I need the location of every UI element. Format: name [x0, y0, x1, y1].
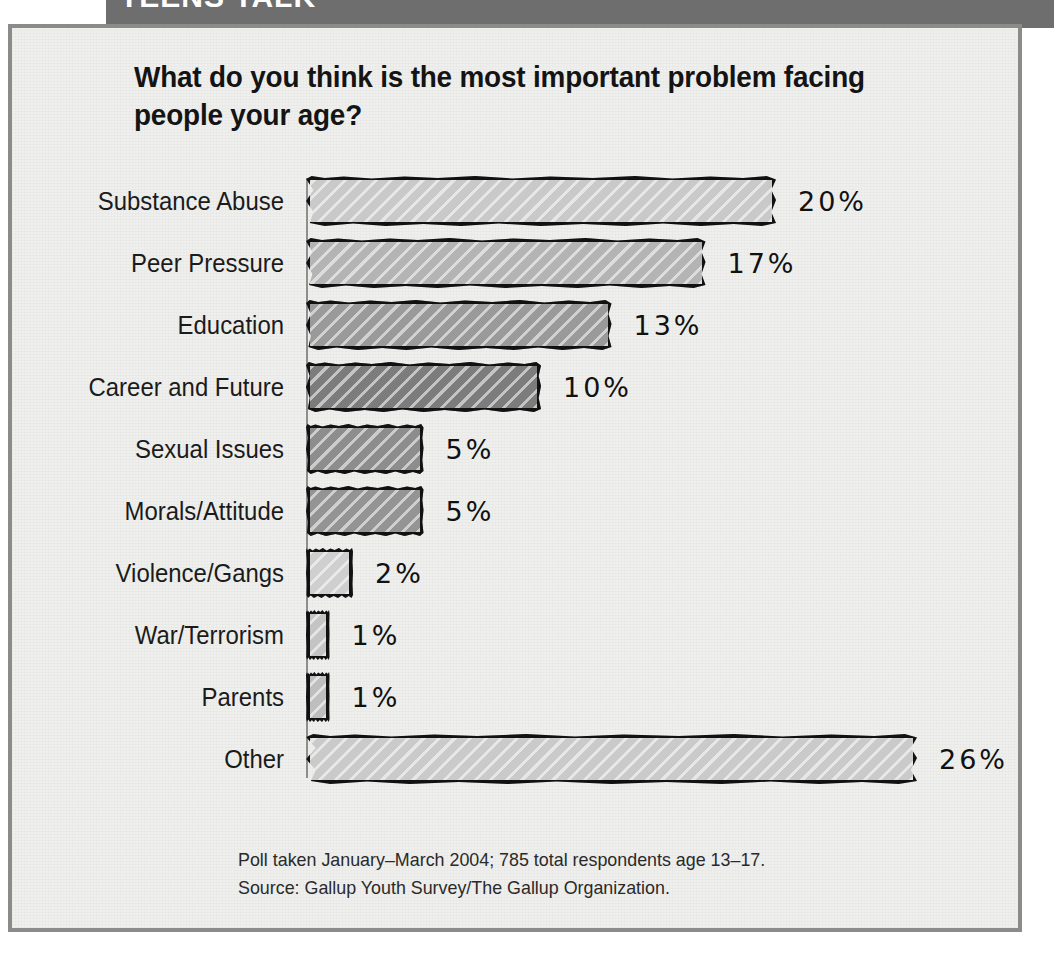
chart-row: War/Terrorism1%: [12, 604, 1018, 666]
chart-card: What do you think is the most important …: [8, 24, 1022, 932]
chart-row: Education13%: [12, 294, 1018, 356]
chart-row: Other26%: [12, 728, 1018, 790]
bar-value-label: 1%: [352, 604, 401, 666]
category-label: Peer Pressure: [34, 232, 284, 294]
bar-shape: [306, 548, 353, 598]
bar-shape: [306, 424, 424, 474]
bar-parents: [306, 672, 330, 722]
banner-title: TEENS TALK: [120, 0, 316, 14]
bar-substance-abuse: [306, 176, 776, 226]
bar-shape: [306, 300, 612, 350]
bar-value-label: 5%: [446, 418, 495, 480]
bar-violence-gangs: [306, 548, 353, 598]
category-label: Sexual Issues: [34, 418, 284, 480]
category-label: Parents: [34, 666, 284, 728]
bar-hatch-pattern: [310, 242, 702, 284]
bar-value-label: 5%: [446, 480, 495, 542]
bar-hatch-pattern: [310, 676, 326, 718]
bar-hatch-pattern: [310, 614, 326, 656]
category-label: War/Terrorism: [34, 604, 284, 666]
bar-value-label: 20%: [798, 170, 867, 232]
bar-hatch-pattern: [310, 738, 913, 780]
bar-chart: Substance Abuse20%Peer Pressure17%Educat…: [12, 156, 1018, 796]
category-label: Education: [34, 294, 284, 356]
bar-sexual-issues: [306, 424, 424, 474]
bar-hatch-pattern: [310, 552, 349, 594]
category-label: Other: [34, 728, 284, 790]
category-label: Career and Future: [34, 356, 284, 418]
bar-shape: [306, 486, 424, 536]
bar-value-label: 1%: [352, 666, 401, 728]
bar-shape: [306, 672, 330, 722]
footnote-line-2: Source: Gallup Youth Survey/The Gallup O…: [238, 874, 765, 902]
bar-hatch-pattern: [310, 428, 420, 470]
bar-hatch-pattern: [310, 490, 420, 532]
bar-shape: [306, 734, 917, 784]
chart-row: Morals/Attitude5%: [12, 480, 1018, 542]
chart-row: Violence/Gangs2%: [12, 542, 1018, 604]
bar-shape: [306, 176, 776, 226]
chart-row: Substance Abuse20%: [12, 170, 1018, 232]
chart-row: Peer Pressure17%: [12, 232, 1018, 294]
page-title: What do you think is the most important …: [134, 58, 869, 135]
bar-shape: [306, 610, 330, 660]
category-label: Substance Abuse: [34, 170, 284, 232]
category-label: Violence/Gangs: [34, 542, 284, 604]
chart-row: Career and Future10%: [12, 356, 1018, 418]
category-label: Morals/Attitude: [34, 480, 284, 542]
chart-footnote: Poll taken January–March 2004; 785 total…: [238, 846, 765, 901]
bar-war-terrorism: [306, 610, 330, 660]
bar-peer-pressure: [306, 238, 706, 288]
bar-value-label: 17%: [728, 232, 797, 294]
bar-morals-attitude: [306, 486, 424, 536]
bar-education: [306, 300, 612, 350]
bar-value-label: 10%: [563, 356, 632, 418]
bar-hatch-pattern: [310, 304, 608, 346]
bar-shape: [306, 362, 541, 412]
bar-hatch-pattern: [310, 180, 772, 222]
footnote-line-1: Poll taken January–March 2004; 785 total…: [238, 846, 765, 874]
bar-career-and-future: [306, 362, 541, 412]
bar-value-label: 13%: [634, 294, 703, 356]
bar-shape: [306, 238, 706, 288]
bar-value-label: 26%: [939, 728, 1008, 790]
bar-hatch-pattern: [310, 366, 537, 408]
bar-other: [306, 734, 917, 784]
chart-row: Parents1%: [12, 666, 1018, 728]
chart-row: Sexual Issues5%: [12, 418, 1018, 480]
bar-value-label: 2%: [375, 542, 424, 604]
